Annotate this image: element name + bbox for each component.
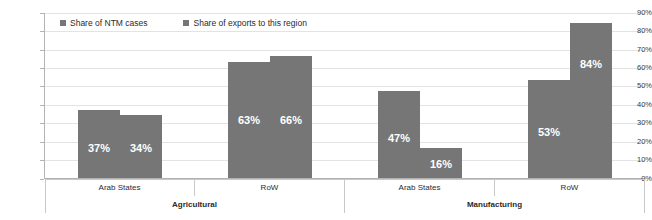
bar-agricultural-arab-states-ntm[interactable]: 37%: [78, 110, 120, 178]
plot-area: 37% 34% 63% 66% 47% 16% 53% 84%: [45, 13, 645, 179]
chart-legend: Share of NTM cases Share of exports to t…: [60, 19, 307, 28]
legend-label: Share of exports to this region: [193, 19, 306, 28]
y-tick-label-80: 80%: [618, 27, 652, 35]
y-tick-label-30: 30%: [618, 119, 652, 127]
x-axis-group-agricultural: Agricultural: [45, 196, 345, 213]
y-tick-mark-90: [40, 13, 44, 14]
y-tick-mark-70: [40, 50, 44, 51]
y-tick-label-70: 70%: [618, 46, 652, 54]
y-tick-mark-50: [40, 86, 44, 87]
bar-label: 84%: [570, 59, 612, 70]
gridline-90: [45, 13, 645, 14]
gridline-60: [45, 68, 645, 69]
bar-agricultural-row-exports[interactable]: 66%: [270, 56, 312, 178]
y-tick-mark-0: [40, 179, 44, 180]
y-tick-label-40: 40%: [618, 101, 652, 109]
x-axis-table: Arab States RoW Arab States RoW Agricult…: [45, 179, 645, 213]
bar-manufacturing-row-exports[interactable]: 84%: [570, 23, 612, 178]
bar-label: 53%: [528, 127, 570, 138]
bar-agricultural-row-ntm[interactable]: 63%: [228, 62, 270, 178]
y-tick-mark-40: [40, 105, 44, 106]
y-tick-label-50: 50%: [618, 82, 652, 90]
legend-item-exports[interactable]: Share of exports to this region: [183, 19, 306, 28]
y-tick-label-10: 10%: [618, 156, 652, 164]
y-tick-mark-10: [40, 160, 44, 161]
y-tick-mark-30: [40, 123, 44, 124]
bar-label: 16%: [420, 159, 462, 170]
gridline-70: [45, 50, 645, 51]
y-tick-mark-20: [40, 142, 44, 143]
x-axis-category-agricultural-row: RoW: [195, 179, 345, 196]
bar-agricultural-arab-states-exports[interactable]: 34%: [120, 115, 162, 178]
y-tick-mark-80: [40, 31, 44, 32]
y-tick-label-60: 60%: [618, 64, 652, 72]
bar-label: 63%: [228, 115, 270, 126]
x-axis-group-manufacturing: Manufacturing: [345, 196, 645, 213]
x-axis-category-row: Arab States RoW Arab States RoW: [45, 179, 645, 196]
bar-label: 66%: [270, 115, 312, 126]
legend-swatch-icon: [183, 20, 189, 26]
legend-swatch-icon: [60, 20, 66, 26]
legend-item-ntm-cases[interactable]: Share of NTM cases: [60, 19, 147, 28]
x-axis-category-agricultural-arab-states: Arab States: [45, 179, 195, 196]
y-tick-label-90: 90%: [618, 9, 652, 17]
bar-label: 34%: [120, 143, 162, 154]
gridline-80: [45, 31, 645, 32]
y-tick-mark-60: [40, 68, 44, 69]
y-axis-line: [44, 13, 45, 179]
bar-label: 37%: [78, 143, 120, 154]
x-axis-group-row: Agricultural Manufacturing: [45, 196, 645, 213]
bar-label: 47%: [378, 133, 420, 144]
bar-chart: 37% 34% 63% 66% 47% 16% 53% 84% 90% 8: [0, 0, 652, 220]
x-axis-category-manufacturing-row: RoW: [495, 179, 645, 196]
legend-label: Share of NTM cases: [70, 19, 147, 28]
x-axis-category-manufacturing-arab-states: Arab States: [345, 179, 495, 196]
bar-manufacturing-arab-states-exports[interactable]: 16%: [420, 148, 462, 178]
bar-manufacturing-row-ntm[interactable]: 53%: [528, 80, 570, 178]
bar-manufacturing-arab-states-ntm[interactable]: 47%: [378, 91, 420, 178]
y-tick-label-20: 20%: [618, 138, 652, 146]
